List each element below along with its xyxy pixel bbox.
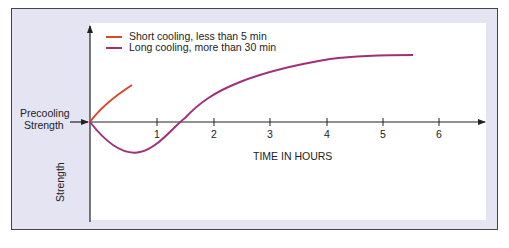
y-axis-title: Strength	[54, 162, 66, 202]
long-cooling-curve	[90, 55, 413, 153]
precooling-label-line1: Precooling	[20, 107, 70, 119]
x-tick-label-2: 2	[211, 128, 217, 140]
x-tick-label-4: 4	[324, 128, 330, 140]
precooling-label-line2: Strength	[24, 119, 64, 131]
x-axis-title: TIME IN HOURS	[253, 150, 332, 162]
x-tick-label-5: 5	[380, 128, 386, 140]
x-tick-label-6: 6	[436, 128, 442, 140]
legend-long-label: Long cooling, more than 30 min	[129, 41, 276, 53]
x-tick-label-3: 3	[267, 128, 273, 140]
short-cooling-curve	[90, 85, 132, 122]
x-tick-label-1: 1	[154, 128, 160, 140]
